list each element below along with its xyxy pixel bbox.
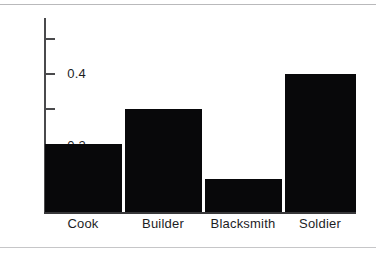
bar-soldier[interactable]	[285, 74, 356, 212]
x-label-builder: Builder	[124, 217, 202, 230]
bar-series	[45, 18, 356, 213]
bar-builder[interactable]	[125, 109, 202, 212]
x-axis-labels: Cook Builder Blacksmith Soldier	[44, 217, 356, 237]
x-label-soldier: Soldier	[284, 217, 356, 230]
x-label-cook: Cook	[44, 217, 122, 230]
page-rule-top	[0, 4, 376, 5]
page-rule-bottom	[0, 247, 376, 248]
bar-blacksmith[interactable]	[205, 179, 282, 212]
x-label-blacksmith: Blacksmith	[204, 217, 282, 230]
plot-area: 0.4 0.2	[44, 18, 356, 213]
bar-chart-figure: 0.4 0.2 Cook Builder Blacksmith Soldier	[0, 0, 376, 256]
bar-cook[interactable]	[45, 144, 122, 212]
